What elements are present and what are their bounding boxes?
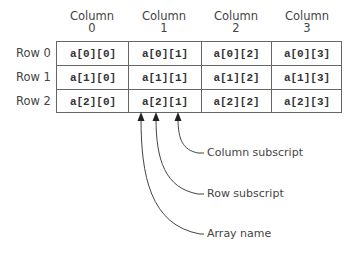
row-subscript-arrow — [156, 118, 204, 194]
callout-arrows — [0, 0, 358, 254]
column-subscript-arrow — [178, 118, 204, 153]
array-name-label: Array name — [207, 227, 271, 240]
row-subscript-label: Row subscript — [207, 187, 284, 200]
array-name-arrow — [141, 118, 204, 234]
arrowhead-icon — [175, 112, 182, 121]
column-subscript-label: Column subscript — [207, 146, 303, 159]
arrowhead-icon — [153, 112, 160, 121]
arrowhead-icon — [138, 112, 145, 121]
